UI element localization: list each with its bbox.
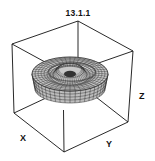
edge-left-vertical <box>12 44 14 113</box>
edge-bottom-front-right <box>64 122 128 152</box>
y-axis-label: Y <box>106 140 112 149</box>
edge-top-back-left <box>12 21 78 44</box>
ring-surface-mesh <box>32 57 108 103</box>
edge-right-vertical <box>128 51 133 122</box>
figure-title: 13.1.1 <box>58 9 98 18</box>
edge-front-vertical <box>64 110 65 152</box>
x-axis-label: X <box>20 134 26 143</box>
z-axis-label: Z <box>139 92 145 101</box>
center-hole <box>64 71 76 78</box>
edge-top-back-right <box>78 21 133 51</box>
